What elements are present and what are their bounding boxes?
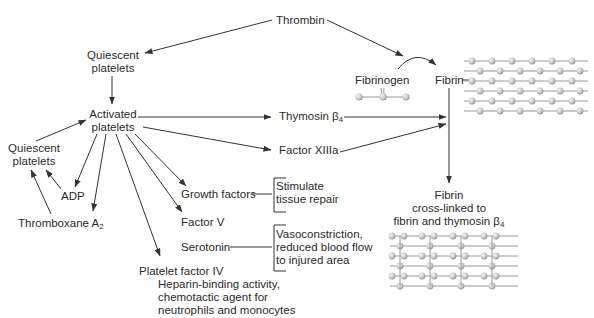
arrow-fibrinogen-to-fibrin [398, 57, 436, 69]
label-line: reduced blood flow [276, 241, 373, 254]
arrow-left-quiescent-to-activated [36, 120, 86, 141]
label-line: Fibrin [389, 189, 509, 202]
arrow-adp-to-quiescent [46, 170, 61, 189]
label-subscript: 4 [500, 220, 504, 229]
label-platelet-factor-iv: Platelet factor IV [139, 265, 223, 278]
label-line: platelets [4, 155, 64, 168]
arrow-activated-to-factor-xiiia [143, 127, 271, 150]
label-thromboxane-a2: Thromboxane A2 [18, 217, 104, 230]
label-line: Heparin-binding activity, [158, 278, 295, 291]
fibrinogen-molecule [355, 88, 409, 101]
label-line: platelets [83, 62, 143, 75]
label-activated-platelets: Activated platelets [83, 108, 143, 134]
label-serotonin: Serotonin [181, 241, 230, 254]
arrow-activated-to-adp [75, 134, 97, 187]
crosslinked-fibrin-lattice [389, 233, 518, 290]
arrow-activated-to-thromboxane [93, 134, 106, 211]
label-line: Vasoconstriction, [276, 228, 373, 241]
label-subscript: 2 [99, 222, 103, 231]
label-line: cross-linked to [389, 202, 509, 215]
label-line: Quiescent [4, 142, 64, 155]
label-line: Activated [83, 108, 143, 121]
fibrin-lattice [464, 58, 588, 115]
label-line: chemotactic agent for [158, 291, 295, 304]
label-thrombin: Thrombin [276, 14, 325, 27]
label-factor-v: Factor V [181, 216, 224, 229]
label-serotonin-description: Vasoconstriction, reduced blood flow to … [276, 228, 373, 267]
arrow-activated-to-growth [135, 134, 186, 186]
label-text: fibrin and thymosin β [394, 215, 500, 227]
diagram-canvas [0, 0, 594, 318]
label-quiescent-platelets-top: Quiescent platelets [83, 49, 143, 75]
label-pf4-description: Heparin-binding activity, chemotactic ag… [158, 278, 295, 317]
label-fibrin: Fibrin [435, 74, 464, 87]
label-line: neutrophils and monocytes [158, 304, 295, 317]
label-line: Quiescent [83, 49, 143, 62]
label-subscript: 4 [339, 115, 343, 124]
label-line: Stimulate [276, 180, 339, 193]
label-fibrinogen: Fibrinogen [355, 74, 409, 87]
label-thymosin-b4: Thymosin β4 [279, 110, 343, 123]
label-line: fibrin and thymosin β4 [389, 215, 509, 228]
arrow-thrombin-to-quiescent [145, 20, 272, 53]
label-line: platelets [83, 121, 143, 134]
label-line: to injured area [276, 254, 373, 267]
label-quiescent-platelets-left: Quiescent platelets [4, 142, 64, 168]
label-growth-factors: Growth factors [181, 188, 256, 201]
label-line: tissue repair [276, 193, 339, 206]
arrow-thrombin-to-fibrin [327, 20, 403, 56]
label-text: Thromboxane A [18, 217, 99, 229]
label-text: Thymosin β [279, 110, 339, 122]
label-factor-xiiia: Factor XIIIa [279, 144, 338, 157]
arrow-thromboxane-to-quiescent [31, 170, 51, 214]
label-growth-description: Stimulate tissue repair [276, 180, 339, 206]
label-crosslinked-fibrin: Fibrin cross-linked to fibrin and thymos… [389, 189, 509, 228]
arrow-factor-xiiia-to-fibrin [340, 124, 446, 152]
label-adp: ADP [61, 190, 85, 203]
